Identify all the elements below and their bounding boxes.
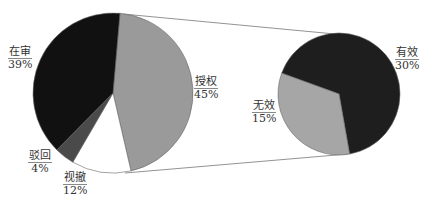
label-shouquan: 授权 45% (194, 76, 218, 101)
label-wuxiao-pct: 15% (252, 113, 276, 125)
label-zaishen-pct: 39% (8, 59, 32, 71)
label-shiche: 视撤 12% (63, 172, 87, 197)
label-youxiao: 有效 30% (395, 47, 419, 72)
secondary-pie (278, 33, 400, 155)
label-shouquan-pct: 45% (194, 89, 218, 101)
label-bohui-pct: 4% (28, 163, 52, 175)
main-pie (33, 13, 193, 173)
label-zaishen: 在审 39% (8, 46, 32, 71)
label-youxiao-pct: 30% (395, 60, 419, 72)
label-shiche-pct: 12% (63, 185, 87, 197)
label-bohui: 驳回 4% (28, 150, 52, 175)
label-wuxiao: 无效 15% (252, 100, 276, 125)
